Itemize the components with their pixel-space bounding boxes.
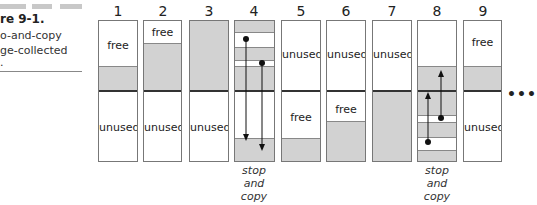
bottom-label: unused [190,121,228,134]
column-number: 1 [98,3,138,19]
column-number: 9 [463,3,503,19]
used-segment [418,150,456,162]
memory-column-9: free unused [463,20,502,162]
note-line: and [234,177,274,190]
memory-column-7: unused [372,20,412,162]
used-segment [235,21,274,32]
column-number: 4 [234,3,274,19]
bottom-label: free [327,103,365,116]
semispace-divider [282,90,320,92]
note-line: and [417,177,457,190]
top-label: unused [373,48,411,61]
top-label: free [144,26,181,39]
live-object-segment [235,32,274,48]
semispace-divider [190,90,228,92]
copied-segment [235,138,274,162]
caption-divider [0,71,82,72]
header-bar [0,4,26,9]
bottom-label: unused [144,121,181,134]
used-segment [282,138,320,162]
memory-column-6: unused free [326,20,366,162]
column-number: 3 [189,3,229,19]
used-segment [235,47,274,61]
used-segment [190,21,228,90]
live-object-segment [418,137,456,151]
memory-column-2: free unused [143,20,182,162]
stop-and-copy-note: stop and copy [234,164,274,203]
top-label: free [99,39,137,52]
memory-column-3: unused [189,20,229,162]
stop-and-copy-note: stop and copy [417,164,457,203]
used-segment [144,43,181,91]
top-label: unused [327,48,365,61]
memory-column-5: unused free [281,20,321,162]
used-segment [418,66,456,91]
header-bar [60,4,82,9]
bottom-label: free [282,111,320,124]
semispace-divider [327,90,365,92]
used-segment [327,121,365,162]
header-bar [32,4,52,9]
continuation-ellipsis: ••• [507,86,537,102]
column-number: 6 [326,3,366,19]
semispace-divider [373,90,411,92]
note-line: stop [417,164,457,177]
column-number: 8 [417,3,457,19]
memory-column-8 [417,20,457,162]
bottom-label: unused [464,121,501,134]
figure-caption-line-1: o-and-copy [0,29,62,42]
used-segment [418,92,456,115]
used-segment [464,66,501,91]
column-number: 2 [143,3,183,19]
top-label: unused [282,48,320,61]
used-segment [99,66,137,91]
figure-caption-line-3: . [0,56,4,69]
semispace-divider [99,90,137,92]
used-segment [418,122,456,138]
used-segment [373,90,411,162]
figure-title: re 9-1. [0,12,44,26]
column-number: 7 [372,3,412,19]
note-line: copy [234,190,274,203]
used-segment [235,66,274,91]
memory-column-1: free unused [98,20,138,162]
top-label: free [464,36,501,49]
figure-caption-line-2: ge-collected [0,44,68,57]
note-line: copy [417,190,457,203]
semispace-divider [235,90,274,92]
bottom-label: unused [99,121,137,134]
semispace-divider [144,90,181,92]
note-line: stop [234,164,274,177]
semispace-divider [464,90,501,92]
column-number: 5 [281,3,321,19]
memory-column-4 [234,20,275,162]
